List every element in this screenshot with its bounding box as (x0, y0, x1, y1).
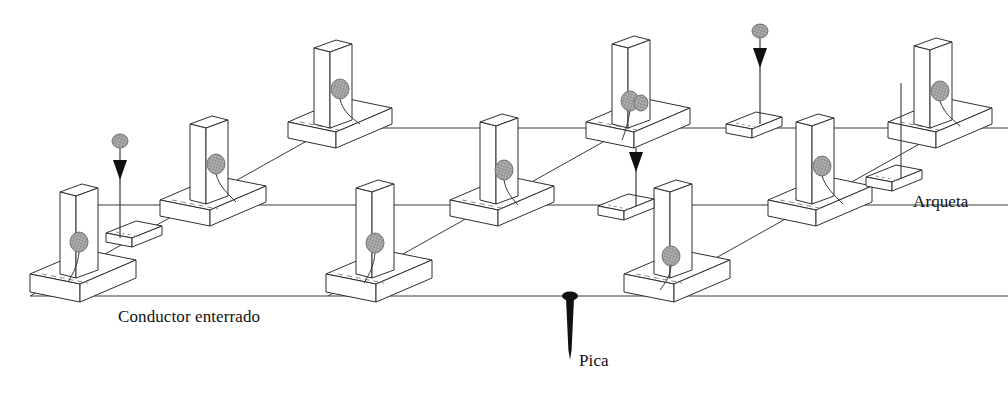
ground-connector-icon (366, 233, 384, 253)
pica-main-marker (562, 292, 578, 361)
column-r2-k0 (60, 184, 98, 278)
ground-connector-icon (634, 95, 648, 111)
pica-marker-2 (752, 24, 768, 124)
arqueta-1 (598, 194, 654, 220)
column-r1-k1 (480, 114, 518, 204)
ground-connector-icon (931, 81, 949, 101)
pica-arrowhead-icon (753, 48, 767, 68)
pica-cap-icon (752, 24, 768, 38)
pica-arrowhead-icon (629, 152, 643, 172)
column-r0-k2 (914, 38, 952, 128)
grid-unit-r1-k2 (768, 114, 872, 226)
label-conductor-enterrado: Conductor enterrado (118, 307, 260, 326)
ground-connector-icon (207, 154, 225, 174)
pica-shank-icon (566, 298, 574, 360)
grid-unit-r0-k0 (288, 40, 392, 148)
grid-unit-r1-k1 (450, 114, 554, 226)
grid-unit-r0-k2 (888, 38, 992, 148)
label-arqueta: Arqueta (913, 192, 969, 211)
ground-connector-icon (495, 160, 513, 180)
pica-cap-icon (112, 134, 128, 148)
arqueta-0 (106, 221, 162, 247)
ground-connector-icon (70, 232, 88, 252)
isometric-scene: Conductor enterrado Pica Arqueta (0, 0, 1008, 396)
column-r2-k1 (356, 180, 394, 278)
pica-marker-0 (112, 134, 128, 238)
grid-unit-r1-k0 (160, 116, 266, 226)
ground-connector-icon (662, 246, 680, 266)
ground-connector-icon (331, 79, 349, 99)
label-pica: Pica (579, 351, 609, 370)
grid-unit-r0-k1 (586, 36, 690, 148)
arqueta-2 (726, 112, 782, 138)
grid-unit-r2-k1 (326, 180, 432, 302)
grounding-grid-diagram: Conductor enterrado Pica Arqueta (0, 0, 1008, 396)
ground-connector-icon (813, 156, 831, 176)
pica-arrowhead-icon (113, 160, 127, 180)
column-r0-k1 (612, 36, 650, 128)
